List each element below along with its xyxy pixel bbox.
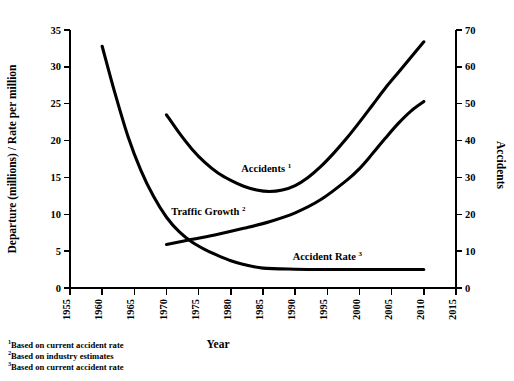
- x-axis-tick-label: 1975: [190, 299, 201, 320]
- footnote-text: Based on industry estimates: [11, 351, 113, 361]
- x-axis-tick-label: 1985: [254, 299, 265, 320]
- series-label-traffic-growth: Traffic Growth 2: [171, 205, 246, 217]
- right-axis-tick-label: 0: [465, 283, 470, 294]
- right-axis-tick-label: 50: [465, 98, 476, 109]
- x-axis-tick-label: 2005: [383, 299, 394, 320]
- left-axis-tick-label: 15: [51, 172, 62, 183]
- left-axis-tick-label: 0: [56, 283, 61, 294]
- x-axis-tick-label: 1960: [93, 299, 104, 320]
- footnote-item: 1Based on current accident rate: [8, 340, 268, 351]
- footnote-item: 3Based on current accident rate: [8, 362, 268, 373]
- x-axis-tick-label: 1965: [125, 299, 136, 320]
- x-axis-tick-label: 1970: [158, 299, 169, 320]
- footnote-item: 2Based on industry estimates: [8, 351, 268, 362]
- x-axis-tick-label: 1995: [318, 299, 329, 320]
- x-axis-tick-label: 2010: [415, 299, 426, 320]
- right-axis-tick-label: 30: [465, 172, 476, 183]
- x-axis-tick-label: 1990: [286, 299, 297, 320]
- right-axis-tick-label: 70: [465, 25, 476, 36]
- left-axis-tick-label: 5: [56, 246, 61, 257]
- x-axis-tick-label: 2015: [447, 299, 458, 320]
- right-axis-tick-label: 20: [465, 209, 476, 220]
- line-chart: 0510152025303519551960196519701975198019…: [0, 0, 514, 381]
- footnote-text: Based on current accident rate: [11, 340, 124, 350]
- footnote-list: 1Based on current accident rate2Based on…: [8, 340, 268, 373]
- right-axis-tick-label: 10: [465, 246, 476, 257]
- series-line-accident-rate: [102, 46, 424, 269]
- chart-container: 0510152025303519551960196519701975198019…: [0, 0, 514, 381]
- left-axis-tick-label: 25: [51, 98, 62, 109]
- series-label-accident-rate: Accident Rate 3: [293, 250, 363, 262]
- series-line-accidents: [167, 42, 424, 192]
- x-axis-tick-label: 1955: [61, 299, 72, 320]
- right-axis-title: Accidents: [495, 141, 507, 189]
- left-axis-tick-label: 30: [51, 61, 62, 72]
- right-axis-tick-label: 60: [465, 61, 476, 72]
- y-axis-title: Departure (millions) / Rate per million: [6, 64, 19, 254]
- left-axis-tick-label: 35: [51, 25, 62, 36]
- x-axis-tick-label: 1980: [222, 299, 233, 320]
- series-line-traffic-growth: [167, 102, 424, 245]
- left-axis-tick-label: 20: [51, 135, 62, 146]
- left-axis-tick-label: 10: [51, 209, 62, 220]
- x-axis-tick-label: 2000: [351, 299, 362, 320]
- series-label-accidents: Accidents 1: [241, 162, 291, 174]
- right-axis-tick-label: 40: [465, 135, 476, 146]
- footnote-text: Based on current accident rate: [11, 362, 124, 372]
